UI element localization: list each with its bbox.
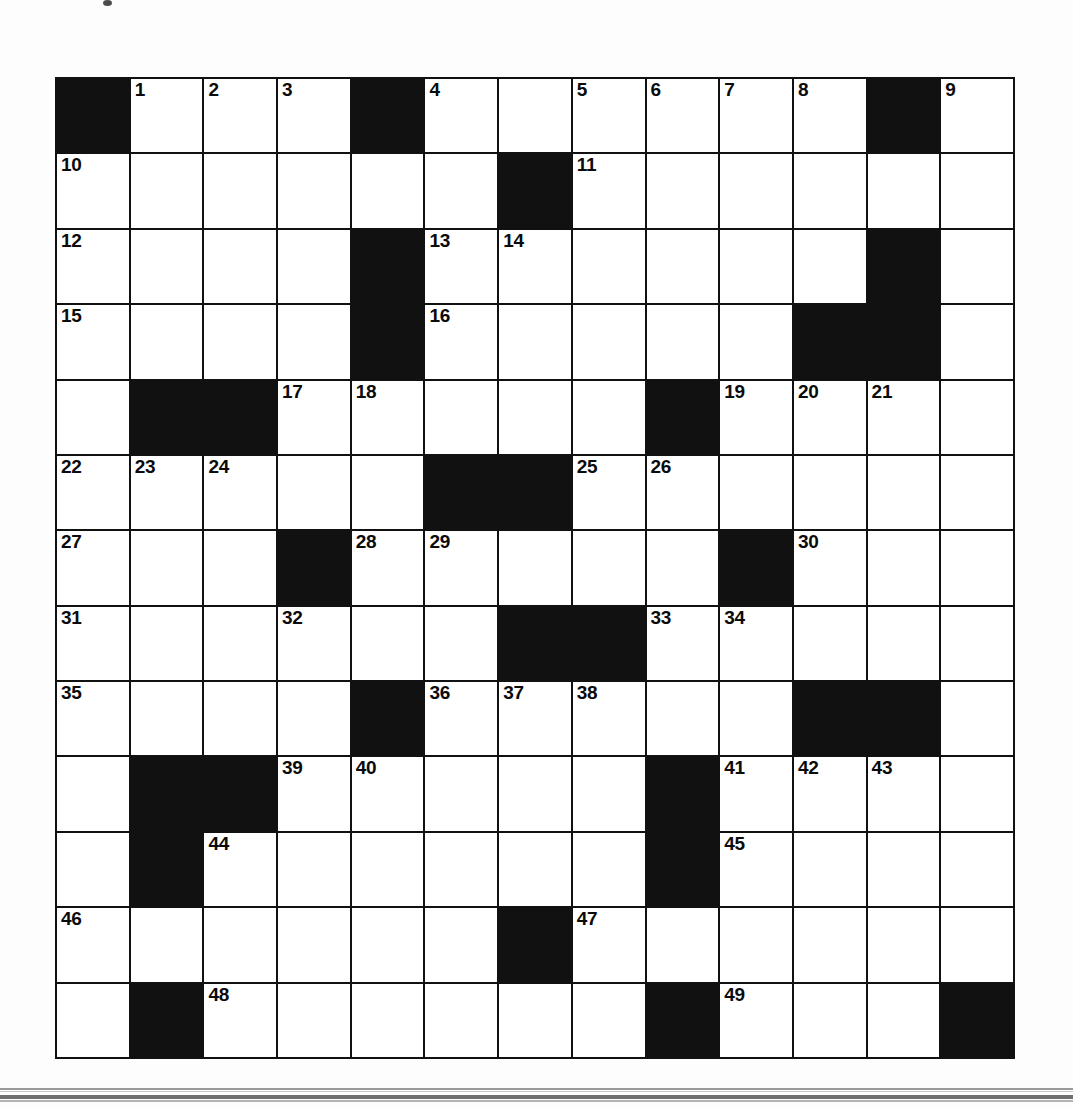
crossword-cell[interactable]: 39 <box>278 757 352 832</box>
crossword-cell[interactable] <box>278 984 352 1059</box>
crossword-cell[interactable] <box>352 154 426 229</box>
crossword-cell[interactable] <box>499 381 573 456</box>
crossword-cell[interactable]: 34 <box>720 607 794 682</box>
crossword-cell[interactable]: 20 <box>794 381 868 456</box>
crossword-cell[interactable] <box>794 607 868 682</box>
crossword-cell[interactable] <box>868 833 942 908</box>
crossword-cell[interactable] <box>720 230 794 305</box>
crossword-cell[interactable]: 29 <box>425 531 499 606</box>
crossword-cell[interactable] <box>941 833 1015 908</box>
crossword-cell[interactable] <box>131 531 205 606</box>
crossword-cell[interactable] <box>573 984 647 1059</box>
crossword-cell[interactable]: 26 <box>647 456 721 531</box>
crossword-cell[interactable]: 30 <box>794 531 868 606</box>
crossword-cell[interactable]: 11 <box>573 154 647 229</box>
crossword-cell[interactable] <box>204 531 278 606</box>
crossword-cell[interactable] <box>573 305 647 380</box>
crossword-cell[interactable]: 6 <box>647 79 721 154</box>
crossword-cell[interactable] <box>941 230 1015 305</box>
crossword-cell[interactable] <box>794 230 868 305</box>
crossword-cell[interactable]: 4 <box>425 79 499 154</box>
crossword-cell[interactable] <box>425 607 499 682</box>
crossword-cell[interactable]: 40 <box>352 757 426 832</box>
crossword-cell[interactable] <box>941 531 1015 606</box>
crossword-cell[interactable] <box>204 682 278 757</box>
crossword-cell[interactable]: 31 <box>57 607 131 682</box>
crossword-cell[interactable] <box>278 154 352 229</box>
crossword-cell[interactable]: 18 <box>352 381 426 456</box>
crossword-cell[interactable]: 41 <box>720 757 794 832</box>
crossword-cell[interactable] <box>131 908 205 983</box>
crossword-cell[interactable] <box>499 305 573 380</box>
crossword-cell[interactable] <box>499 79 573 154</box>
crossword-cell[interactable] <box>131 154 205 229</box>
crossword-cell[interactable]: 1 <box>131 79 205 154</box>
crossword-cell[interactable]: 38 <box>573 682 647 757</box>
crossword-cell[interactable] <box>941 381 1015 456</box>
crossword-cell[interactable] <box>57 984 131 1059</box>
crossword-cell[interactable] <box>499 757 573 832</box>
crossword-cell[interactable] <box>868 154 942 229</box>
crossword-cell[interactable] <box>204 908 278 983</box>
crossword-cell[interactable] <box>278 833 352 908</box>
crossword-cell[interactable] <box>57 381 131 456</box>
crossword-cell[interactable] <box>57 833 131 908</box>
crossword-cell[interactable] <box>131 682 205 757</box>
crossword-cell[interactable] <box>425 984 499 1059</box>
crossword-cell[interactable]: 36 <box>425 682 499 757</box>
crossword-cell[interactable] <box>941 607 1015 682</box>
crossword-cell[interactable] <box>204 607 278 682</box>
crossword-cell[interactable]: 22 <box>57 456 131 531</box>
crossword-cell[interactable] <box>131 305 205 380</box>
crossword-cell[interactable] <box>647 230 721 305</box>
crossword-cell[interactable] <box>794 456 868 531</box>
crossword-cell[interactable] <box>131 607 205 682</box>
crossword-cell[interactable] <box>941 154 1015 229</box>
crossword-cell[interactable] <box>868 908 942 983</box>
crossword-cell[interactable] <box>647 154 721 229</box>
crossword-cell[interactable]: 23 <box>131 456 205 531</box>
crossword-cell[interactable] <box>720 154 794 229</box>
crossword-cell[interactable] <box>57 757 131 832</box>
crossword-cell[interactable] <box>794 984 868 1059</box>
crossword-cell[interactable] <box>352 607 426 682</box>
crossword-grid[interactable]: 1234567891011121314151617181920212223242… <box>55 77 1015 1059</box>
crossword-cell[interactable]: 5 <box>573 79 647 154</box>
crossword-cell[interactable] <box>647 908 721 983</box>
crossword-cell[interactable] <box>425 381 499 456</box>
crossword-cell[interactable] <box>499 984 573 1059</box>
crossword-cell[interactable] <box>425 833 499 908</box>
crossword-cell[interactable]: 43 <box>868 757 942 832</box>
crossword-cell[interactable]: 13 <box>425 230 499 305</box>
crossword-cell[interactable] <box>352 456 426 531</box>
crossword-cell[interactable]: 19 <box>720 381 794 456</box>
crossword-cell[interactable]: 14 <box>499 230 573 305</box>
crossword-cell[interactable]: 12 <box>57 230 131 305</box>
crossword-cell[interactable]: 49 <box>720 984 794 1059</box>
crossword-cell[interactable]: 48 <box>204 984 278 1059</box>
crossword-cell[interactable]: 10 <box>57 154 131 229</box>
crossword-cell[interactable] <box>868 984 942 1059</box>
crossword-cell[interactable]: 8 <box>794 79 868 154</box>
crossword-cell[interactable] <box>204 305 278 380</box>
crossword-cell[interactable] <box>794 154 868 229</box>
crossword-cell[interactable] <box>573 833 647 908</box>
crossword-cell[interactable]: 25 <box>573 456 647 531</box>
crossword-cell[interactable] <box>278 305 352 380</box>
crossword-cell[interactable]: 24 <box>204 456 278 531</box>
crossword-cell[interactable]: 21 <box>868 381 942 456</box>
crossword-cell[interactable]: 15 <box>57 305 131 380</box>
crossword-cell[interactable]: 28 <box>352 531 426 606</box>
crossword-cell[interactable]: 37 <box>499 682 573 757</box>
crossword-cell[interactable] <box>278 908 352 983</box>
crossword-cell[interactable] <box>868 456 942 531</box>
crossword-cell[interactable] <box>720 908 794 983</box>
crossword-cell[interactable] <box>425 908 499 983</box>
crossword-cell[interactable]: 17 <box>278 381 352 456</box>
crossword-cell[interactable] <box>425 757 499 832</box>
crossword-cell[interactable]: 35 <box>57 682 131 757</box>
crossword-cell[interactable] <box>573 757 647 832</box>
crossword-cell[interactable]: 16 <box>425 305 499 380</box>
crossword-cell[interactable]: 3 <box>278 79 352 154</box>
crossword-cell[interactable]: 45 <box>720 833 794 908</box>
